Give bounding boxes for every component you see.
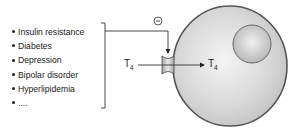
conditions-bracket: [101, 23, 105, 108]
list-item: Bipolar disorder: [12, 68, 84, 82]
inhibition-line: [105, 31, 168, 53]
cell-body: [173, 6, 287, 126]
list-item: Insulin resistance: [12, 25, 84, 39]
list-item: Diabetes: [12, 39, 84, 53]
t4-outside-label: T4: [124, 58, 134, 71]
t4-inside-label: T4: [208, 58, 218, 71]
cell: [173, 6, 287, 126]
list-item: ....: [12, 96, 84, 110]
inhibition-minus-icon: [154, 17, 162, 25]
conditions-list: Insulin resistance Diabetes Depression B…: [12, 25, 84, 110]
list-item: Hyperlipidemia: [12, 82, 84, 96]
list-item: Depression: [12, 53, 84, 67]
nucleus: [233, 25, 271, 63]
